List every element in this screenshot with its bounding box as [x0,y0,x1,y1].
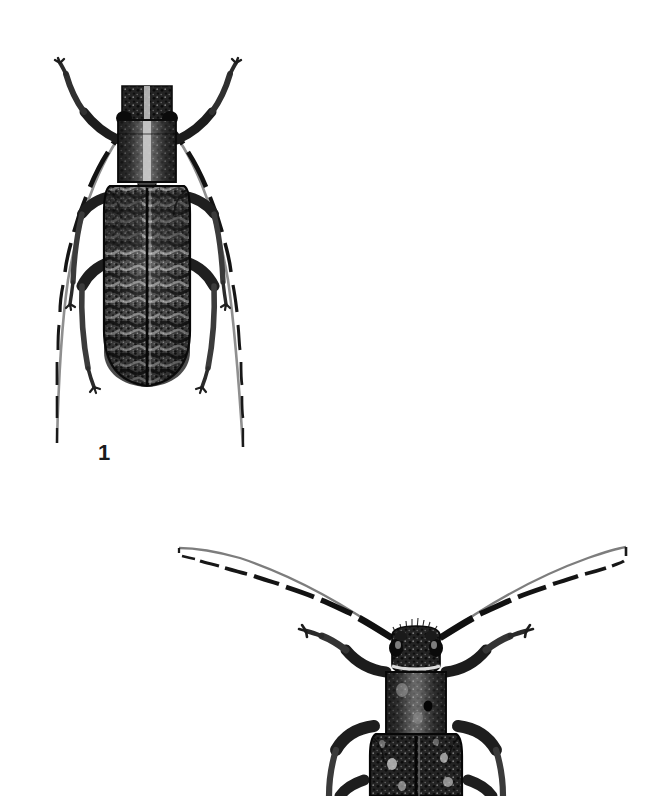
plate-background [0,0,661,796]
beetle-plate-artwork [0,0,661,796]
figure-1-elytra [104,186,190,387]
illustration-plate: 1 [0,0,661,796]
figure-2-pronotum [386,672,446,734]
figure-1-pronotum [118,120,176,182]
figure-1-number-label: 1 [98,442,110,464]
figure-2-elytra [370,734,462,796]
